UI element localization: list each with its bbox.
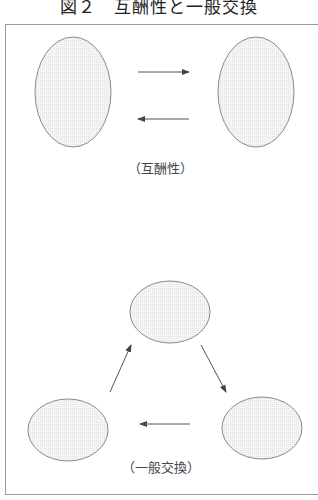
exchange-diagram (0, 0, 318, 500)
actor-b-ellipse (218, 37, 294, 147)
arrow-top-to-right (201, 345, 226, 392)
arrow-left-to-top (110, 345, 131, 392)
general-exchange-label: （一般交換） (101, 457, 221, 476)
actor-right-ellipse (222, 397, 302, 459)
actor-left-ellipse (28, 399, 108, 461)
general-exchange-group (28, 281, 302, 461)
actor-a-ellipse (35, 37, 111, 147)
reciprocity-label: （互酬性） (100, 158, 220, 177)
actor-top-ellipse (130, 281, 210, 343)
reciprocity-group (35, 37, 294, 147)
